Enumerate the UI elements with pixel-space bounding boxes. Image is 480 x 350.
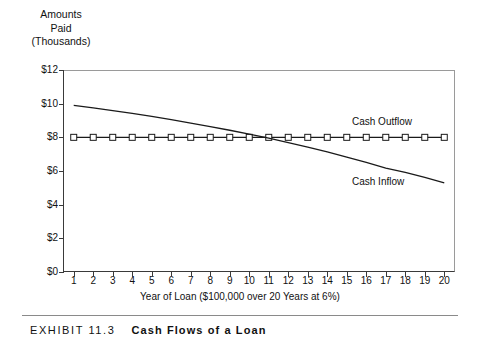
series-marker: [71, 134, 77, 140]
series-marker: [324, 134, 330, 140]
series-marker: [285, 134, 291, 140]
exhibit-title: Cash Flows of a Loan: [131, 324, 266, 336]
series-label-cash-inflow: Cash Inflow: [352, 176, 404, 187]
series-marker: [188, 134, 194, 140]
series-marker: [441, 134, 447, 140]
exhibit-number: EXHIBIT 11.3: [30, 324, 115, 336]
series-marker: [305, 134, 311, 140]
series-marker: [344, 134, 350, 140]
series-marker: [363, 134, 369, 140]
caption-divider: [22, 315, 458, 316]
series-marker: [422, 134, 428, 140]
series-marker: [168, 134, 174, 140]
series-marker: [207, 134, 213, 140]
series-marker: [383, 134, 389, 140]
series-marker: [402, 134, 408, 140]
series-marker: [149, 134, 155, 140]
series-label-cash-outflow: Cash Outflow: [352, 116, 412, 127]
series-marker: [227, 134, 233, 140]
series-marker: [110, 134, 116, 140]
exhibit-caption: EXHIBIT 11.3Cash Flows of a Loan: [30, 324, 267, 336]
x-axis-title: Year of Loan ($100,000 over 20 Years at …: [0, 291, 480, 302]
series-marker: [129, 134, 135, 140]
exhibit-figure: Amounts Paid (Thousands) $0$2$4$6$8$10$1…: [0, 0, 480, 350]
series-marker: [90, 134, 96, 140]
